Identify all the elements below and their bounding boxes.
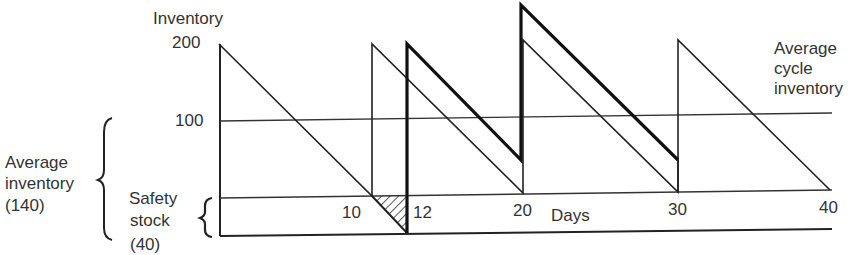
x-tick-20: 20	[513, 202, 532, 220]
avg-inventory-label-line2: inventory	[5, 175, 74, 193]
avg-inventory-label-line3: (140)	[5, 197, 45, 215]
zero-line	[220, 229, 832, 236]
x-tick-30: 30	[668, 201, 687, 219]
x-tick-12: 12	[413, 204, 432, 222]
avg-cycle-label-line3: inventory	[774, 80, 843, 98]
days-axis-line	[220, 190, 832, 198]
y-axis-title: Inventory	[153, 10, 223, 28]
safety-stock-label-line1: Safety	[129, 190, 177, 208]
average-inventory-brace	[98, 118, 112, 240]
x-axis-title: Days	[551, 207, 590, 225]
x-tick-40: 40	[819, 199, 838, 217]
thin-sawtooth-line	[219, 40, 830, 196]
avg-inventory-label-line1: Average	[5, 154, 68, 172]
y-tick-100: 100	[175, 112, 203, 130]
safety-stock-brace	[200, 198, 212, 237]
safety-stock-label-line2: stock	[130, 212, 170, 230]
safety-stock-label-line3: (40)	[130, 236, 160, 254]
x-tick-10: 10	[342, 204, 361, 222]
average-cycle-inventory-line	[220, 113, 832, 121]
avg-cycle-label-line2: cycle	[774, 60, 813, 78]
avg-cycle-label-line1: Average	[774, 40, 837, 58]
y-tick-200: 200	[172, 34, 200, 52]
